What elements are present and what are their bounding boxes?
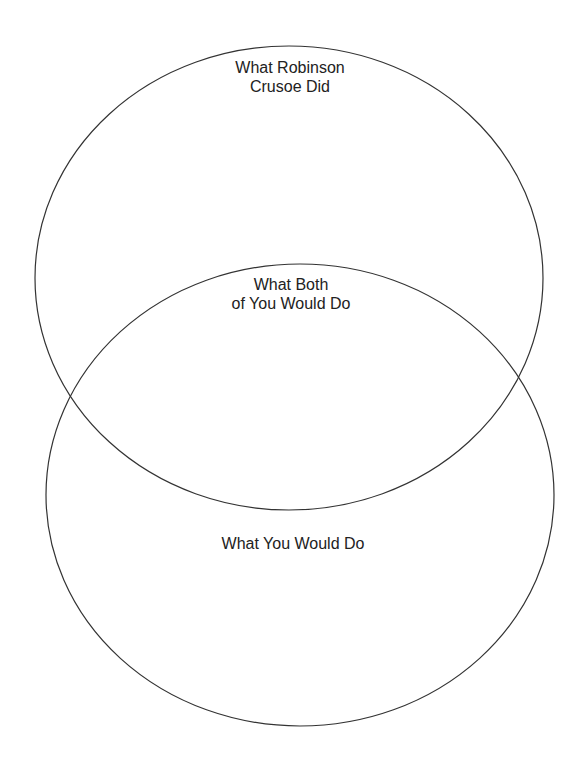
intersection-label: What Both of You Would Do xyxy=(232,275,351,313)
intersection-label-line-2: of You Would Do xyxy=(232,294,351,313)
you-ellipse xyxy=(46,264,554,726)
robinson-crusoe-label-line-1: What Robinson xyxy=(235,58,344,77)
robinson-crusoe-label-line-2: Crusoe Did xyxy=(235,77,344,96)
intersection-label-line-1: What Both xyxy=(232,275,351,294)
you-label: What You Would Do xyxy=(222,534,365,553)
robinson-crusoe-label: What Robinson Crusoe Did xyxy=(235,58,344,96)
you-label-line-1: What You Would Do xyxy=(222,534,365,553)
venn-diagram xyxy=(0,0,583,764)
